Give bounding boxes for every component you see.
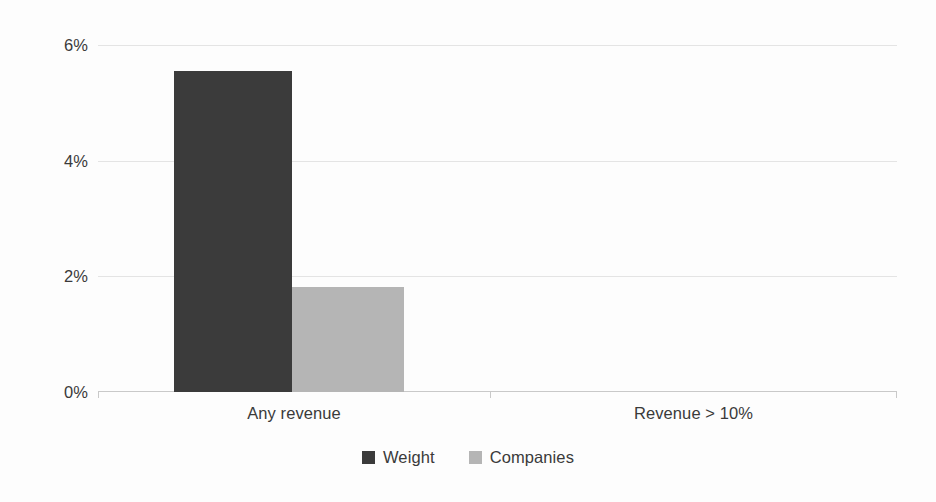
bar-chart: 6% 4% 2% 0% Any revenue Revenue > 10% We…	[0, 0, 936, 502]
x-tick-right	[896, 392, 897, 398]
y-tick-label-6: 6%	[28, 37, 88, 54]
legend-swatch-icon-weight	[362, 451, 375, 464]
chart-legend: Weight Companies	[0, 449, 936, 466]
gridline-6	[98, 45, 897, 46]
y-axis: 6% 4% 2% 0%	[20, 45, 88, 392]
y-tick-label-2: 2%	[28, 268, 88, 285]
category-label-any-revenue: Any revenue	[98, 404, 490, 422]
plot-area	[98, 45, 897, 392]
x-tick-left	[98, 392, 99, 398]
legend-item-companies: Companies	[469, 449, 574, 466]
legend-swatch-icon-companies	[469, 451, 482, 464]
legend-label-companies: Companies	[490, 449, 574, 466]
legend-item-weight: Weight	[362, 449, 435, 466]
legend-label-weight: Weight	[383, 449, 435, 466]
bar-companies-any-revenue	[292, 287, 404, 392]
x-tick-middle	[490, 392, 491, 398]
category-label-revenue-over-10: Revenue > 10%	[490, 404, 897, 422]
y-tick-label-4: 4%	[28, 152, 88, 169]
y-tick-label-0: 0%	[28, 384, 88, 401]
bar-weight-any-revenue	[174, 71, 292, 392]
